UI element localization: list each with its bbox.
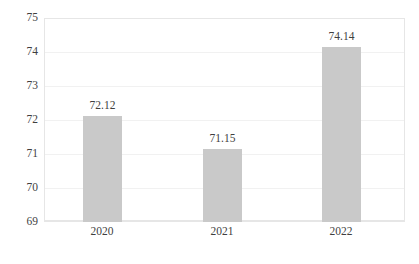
- bar-group-2022: 74.14: [322, 18, 361, 222]
- bar-chart: 75 74 73 72 71 70 69 72.12 71.15 74.14: [0, 0, 419, 264]
- y-axis-tick-label: 70: [4, 182, 38, 194]
- bar[interactable]: [83, 116, 122, 222]
- y-axis-tick-label: 72: [4, 114, 38, 126]
- bar-value-label: 74.14: [329, 31, 355, 43]
- bar[interactable]: [203, 149, 242, 222]
- x-axis-tick-label: 2021: [211, 226, 234, 238]
- y-axis-tick-label: 73: [4, 80, 38, 92]
- bar-value-label: 71.15: [210, 133, 236, 145]
- y-axis: 75 74 73 72 71 70 69: [0, 18, 38, 222]
- bar-group-2020: 72.12: [83, 18, 122, 222]
- y-axis-tick-label: 74: [4, 46, 38, 58]
- y-axis-tick-label: 75: [4, 12, 38, 24]
- bar[interactable]: [322, 47, 361, 222]
- bar-group-2021: 71.15: [203, 18, 242, 222]
- bar-series: 72.12 71.15 74.14: [44, 18, 405, 222]
- y-axis-tick-label: 69: [4, 216, 38, 228]
- y-axis-tick-label: 71: [4, 148, 38, 160]
- bar-value-label: 72.12: [90, 100, 116, 112]
- x-axis: 2020 2021 2022: [44, 226, 405, 246]
- x-axis-tick-label: 2022: [330, 226, 353, 238]
- x-axis-tick-label: 2020: [91, 226, 114, 238]
